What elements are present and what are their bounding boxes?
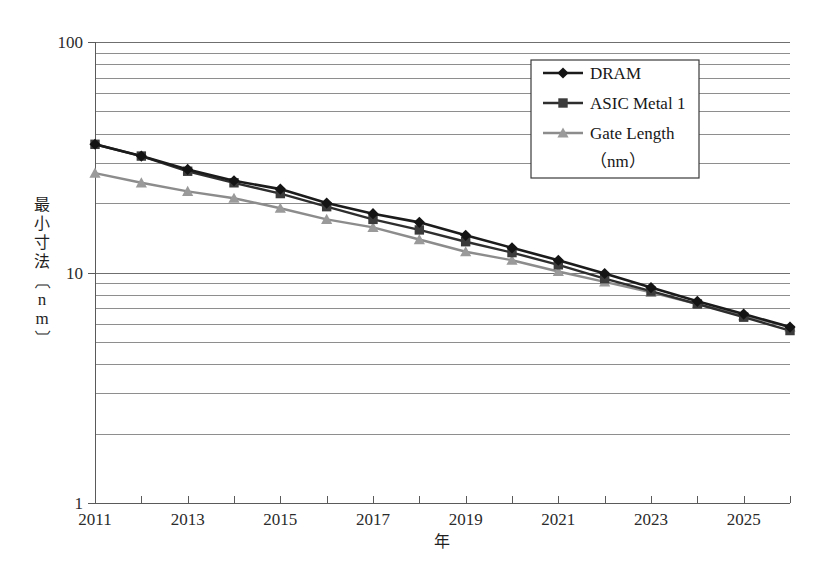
y-axis-title-char: 最 — [34, 195, 50, 214]
x-tick-label: 2023 — [634, 510, 668, 529]
x-tick-label: 2011 — [78, 510, 111, 529]
chart-legend: DRAMASIC Metal 1Gate Length（nm） — [531, 60, 699, 178]
y-axis-title-char: n — [38, 290, 47, 309]
legend-label: ASIC Metal 1 — [590, 94, 685, 113]
y-axis-title-char: 〕 — [33, 330, 52, 346]
x-tick-label: 2013 — [171, 510, 205, 529]
series-gate-length-nm — [89, 167, 795, 331]
x-tick-label: 2021 — [541, 510, 575, 529]
y-tick-labels-group: 110100 — [58, 33, 84, 513]
y-axis-title-char: 〔 — [33, 273, 52, 289]
x-tick-label: 2019 — [449, 510, 483, 529]
legend-label-secondary: （nm） — [590, 152, 646, 171]
series-line — [95, 173, 790, 327]
y-axis-title: 最小寸法〔nm〕 — [33, 195, 52, 346]
data-point-marker — [558, 98, 567, 107]
y-axis-title-char: 法 — [34, 252, 50, 271]
chart-figure: 110100 20112013201520172019202120232025 … — [0, 0, 824, 588]
x-tick-label: 2025 — [727, 510, 761, 529]
data-point-marker — [89, 167, 100, 177]
x-tick-label: 2017 — [356, 510, 391, 529]
x-tick-label: 2015 — [263, 510, 297, 529]
y-tick-label: 100 — [58, 33, 84, 52]
legend-label: DRAM — [590, 64, 641, 83]
x-axis-title: 年 — [434, 532, 450, 551]
legend-label: Gate Length — [590, 124, 675, 143]
y-axis-title-char: 小 — [34, 214, 50, 233]
chart-svg: 110100 20112013201520172019202120232025 … — [0, 0, 824, 588]
y-axis-title-char: 寸 — [34, 233, 50, 252]
x-tick-labels-group: 20112013201520172019202120232025 — [78, 510, 760, 529]
y-tick-label: 10 — [66, 264, 83, 283]
y-axis-title-char: m — [35, 309, 48, 328]
